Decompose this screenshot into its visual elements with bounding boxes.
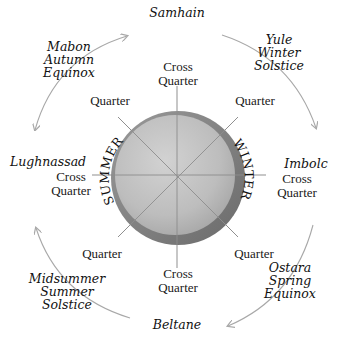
quarter-top-right: Quarter [225,94,285,108]
quarter-bottom-right: Quarter [224,247,284,261]
festival-beltane: Beltane [140,318,214,331]
festival-samhain: Samhain [140,6,214,19]
quarter-top-left: Quarter [80,94,140,108]
quarter-left: Cross Quarter [38,170,104,197]
quarter-bottom: Cross Quarter [143,267,213,294]
festival-ostara: Ostara Spring Equinox [257,261,323,300]
quarter-right: Cross Quarter [264,172,330,199]
festival-imbolc: Imbolc [275,157,337,170]
quarter-bottom-left: Quarter [72,247,132,261]
festival-midsummer: Midsummer Summer Solstice [22,272,112,311]
quarter-top: Cross Quarter [143,60,213,87]
festival-lughnassad: Lughnassad [4,155,92,168]
season-disc [111,111,245,245]
festival-yule: Yule Winter Solstice [247,33,311,72]
festival-mabon: Mabon Autumn Equinox [34,40,104,79]
wheel-of-year-diagram: SUMMER WINTER Samhain Yule Winter Solsti… [0,0,339,343]
